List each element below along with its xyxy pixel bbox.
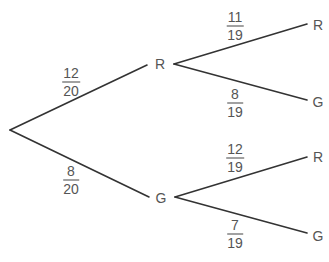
prob-first-R: 12 20 (62, 66, 80, 99)
prob-G-then-R-numerator: 12 (226, 142, 244, 159)
prob-first-R-denominator: 20 (62, 83, 80, 99)
branch-root-to-G (10, 130, 149, 197)
prob-G-then-R: 12 19 (226, 142, 244, 175)
tree-branches (0, 0, 329, 262)
node-RG: G (313, 95, 324, 109)
prob-R-then-G-numerator: 8 (227, 87, 243, 104)
node-first-G: G (156, 191, 167, 205)
node-GG: G (313, 229, 324, 243)
prob-G-then-G-denominator: 19 (227, 235, 243, 251)
prob-first-G: 8 20 (63, 164, 79, 197)
prob-R-then-G-denominator: 19 (227, 104, 243, 120)
prob-G-then-G-numerator: 7 (227, 218, 243, 235)
node-GR: R (313, 150, 323, 164)
prob-first-R-numerator: 12 (62, 66, 80, 83)
prob-G-then-R-denominator: 19 (226, 159, 244, 175)
node-first-R: R (155, 57, 165, 71)
prob-R-then-R-denominator: 19 (227, 27, 244, 43)
prob-first-G-denominator: 20 (63, 181, 79, 197)
prob-G-then-G: 7 19 (227, 218, 243, 251)
prob-R-then-R-numerator: 11 (227, 10, 244, 27)
node-RR: R (313, 18, 323, 32)
prob-first-G-numerator: 8 (63, 164, 79, 181)
prob-R-then-R: 11 19 (227, 10, 244, 43)
prob-R-then-G: 8 19 (227, 87, 243, 120)
